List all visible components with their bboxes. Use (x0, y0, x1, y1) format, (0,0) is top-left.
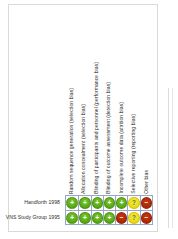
risk-low-icon: + (92, 212, 103, 224)
judgement-cell[interactable]: + (66, 211, 78, 225)
judgement-cell[interactable]: ? (127, 196, 139, 210)
column-header-blinding-outcome-assessment: Blinding of outcome assessment (detectio… (103, 18, 116, 194)
judgement-cell[interactable]: + (91, 211, 103, 225)
column-header-label: Incomplete outcome data (attrition bias) (119, 102, 124, 194)
judgement-grid: + + + + + ? − + + + + − ? − (65, 195, 153, 225)
column-header-selective-reporting: Selective reporting (reporting bias) (128, 18, 141, 194)
judgement-cell[interactable]: + (78, 196, 90, 210)
table-row: + + + + − ? − (66, 210, 152, 225)
column-header-label: Blinding of participants and personnel (… (94, 62, 99, 194)
risk-high-icon: − (116, 212, 127, 224)
column-header-label: Other bias (144, 170, 149, 194)
column-header-label: Selective reporting (reporting bias) (131, 114, 136, 194)
judgement-cell[interactable]: − (140, 211, 152, 225)
judgement-cell[interactable]: + (66, 196, 78, 210)
risk-low-icon: + (66, 197, 78, 209)
panel-divider-line-secondary (172, 88, 173, 228)
panel-divider-line (168, 88, 169, 228)
column-header-strip: Random sequence generation (selection bi… (65, 18, 153, 194)
study-label-vns-study-group-1995: VNS Study Group 1995 (9, 209, 63, 225)
risk-of-bias-table: Random sequence generation (selection bi… (65, 13, 153, 225)
column-header-incomplete-outcome-data: Incomplete outcome data (attrition bias) (115, 18, 128, 194)
study-label-handforth-1998: Handforth 1998 (9, 195, 63, 209)
column-header-allocation-concealment: Allocation concealment (selection bias) (78, 18, 91, 194)
table-row: + + + + + ? − (66, 196, 152, 210)
column-header-label: Random sequence generation (selection bi… (69, 88, 74, 194)
risk-low-icon: + (92, 197, 103, 209)
judgement-cell[interactable]: + (78, 211, 90, 225)
risk-unclear-icon: ? (128, 197, 139, 209)
column-header-blinding-participants: Blinding of participants and personnel (… (90, 18, 103, 194)
risk-high-icon: − (141, 197, 152, 209)
column-header-label: Allocation concealment (selection bias) (81, 104, 86, 194)
risk-low-icon: + (104, 212, 115, 224)
column-header-random-sequence-generation: Random sequence generation (selection bi… (65, 18, 78, 194)
judgement-cell[interactable]: − (140, 196, 152, 210)
column-header-other-bias: Other bias (140, 18, 153, 194)
risk-low-icon: + (79, 212, 90, 224)
judgement-cell[interactable]: + (103, 211, 115, 225)
risk-low-icon: + (79, 197, 90, 209)
judgement-cell[interactable]: + (115, 196, 127, 210)
risk-low-icon: + (104, 197, 115, 209)
judgement-cell[interactable]: ? (127, 211, 139, 225)
study-label-column: Handforth 1998 VNS Study Group 1995 (9, 195, 63, 225)
judgement-cell[interactable]: + (103, 196, 115, 210)
judgement-cell[interactable]: − (115, 211, 127, 225)
risk-high-icon: − (141, 212, 152, 224)
risk-low-icon: + (66, 212, 78, 224)
figure-panel: Random sequence generation (selection bi… (8, 4, 158, 232)
column-header-label: Blinding of outcome assessment (detectio… (106, 82, 111, 194)
risk-unclear-icon: ? (128, 212, 139, 224)
judgement-cell[interactable]: + (91, 196, 103, 210)
risk-low-icon: + (116, 197, 127, 209)
